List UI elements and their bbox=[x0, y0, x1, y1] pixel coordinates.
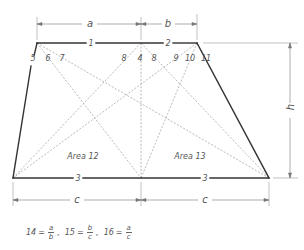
construction-lines bbox=[13, 43, 269, 178]
trapezoid-outline bbox=[13, 43, 269, 178]
edge-label-2: 2 bbox=[165, 39, 170, 48]
separator: , bbox=[57, 228, 60, 237]
formula-label-15: 15 bbox=[65, 228, 75, 237]
point-label-7: 7 bbox=[59, 54, 65, 63]
formula-label-14: 14 bbox=[26, 228, 36, 237]
fraction-a-over-b: a b bbox=[48, 224, 54, 241]
dimension-lines bbox=[13, 23, 292, 202]
equals-sign: = bbox=[77, 228, 84, 237]
point-label-5: 5 bbox=[30, 54, 35, 63]
denominator: b bbox=[49, 233, 53, 241]
edge-label-3-left: 3 bbox=[75, 174, 80, 183]
point-label-9: 9 bbox=[173, 54, 178, 63]
point-label-10: 10 bbox=[185, 54, 195, 63]
edge-label-1: 1 bbox=[88, 39, 93, 48]
point-label-11: 11 bbox=[201, 54, 211, 63]
numerator: b bbox=[87, 224, 93, 233]
dim-label-h: h bbox=[285, 104, 296, 110]
area-label-12: Area 12 bbox=[66, 152, 98, 161]
edge-label-3-right: 3 bbox=[202, 174, 207, 183]
point-label-6: 6 bbox=[45, 54, 50, 63]
point-label-8-left: 8 bbox=[121, 54, 126, 63]
fraction-b-over-c: b c bbox=[87, 224, 93, 241]
ratio-formula: 14 = a b , 15 = b c , 16 = a c bbox=[26, 224, 133, 241]
point-label-8-right: 8 bbox=[151, 54, 156, 63]
point-label-4: 4 bbox=[137, 54, 142, 63]
dim-label-c-right: c bbox=[202, 194, 208, 205]
formula-label-16: 16 bbox=[104, 228, 114, 237]
denominator: c bbox=[127, 233, 131, 241]
dim-label-b: b bbox=[165, 18, 171, 29]
numerator: a bbox=[48, 224, 54, 233]
denominator: c bbox=[88, 233, 92, 241]
separator: , bbox=[96, 228, 99, 237]
trapezoid-diagram: 1 2 3 3 5 6 7 8 4 8 9 10 11 a b c c h Ar… bbox=[0, 0, 304, 250]
equals-sign: = bbox=[38, 228, 45, 237]
area-label-13: Area 13 bbox=[173, 152, 205, 161]
equals-sign: = bbox=[116, 228, 123, 237]
fraction-a-over-c: a c bbox=[126, 224, 132, 241]
dim-label-c-left: c bbox=[74, 194, 80, 205]
numerator: a bbox=[126, 224, 132, 233]
dim-label-a: a bbox=[87, 18, 93, 29]
